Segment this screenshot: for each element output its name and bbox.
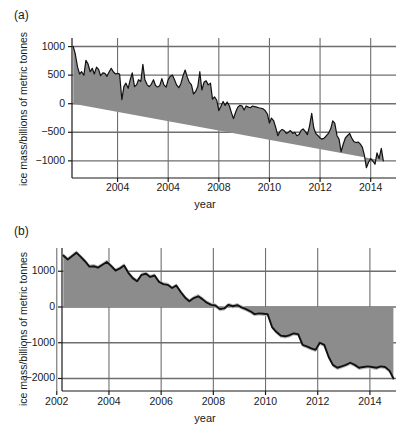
x-tick-label: 2012	[296, 395, 340, 407]
x-tick-label: 2008	[191, 395, 235, 407]
panel-a-xlabel: year	[150, 198, 260, 210]
x-tick-label: 2004	[87, 395, 131, 407]
x-tick-label: 2014	[349, 181, 393, 193]
x-tick-label: 2004	[96, 181, 140, 193]
y-tick-label: −1000	[0, 336, 55, 348]
x-tick-label: 2014	[348, 395, 392, 407]
x-tick-label: 2002	[35, 395, 79, 407]
y-tick-label: 500	[0, 68, 65, 80]
x-tick-label: 2012	[298, 181, 342, 193]
panel-b-xlabel: year	[150, 412, 260, 424]
x-tick-label: 2004	[146, 181, 190, 193]
y-tick-label: −500	[0, 125, 65, 137]
x-tick-label: 2006	[139, 395, 183, 407]
y-tick-label: 1000	[0, 264, 55, 276]
y-tick-label: −2000	[0, 371, 55, 383]
figure-container: (a) ice mass/billions of metric tonnes y…	[0, 0, 410, 432]
y-tick-label: −1000	[0, 154, 65, 166]
x-tick-label: 2010	[247, 181, 291, 193]
y-tick-label: 0	[0, 97, 65, 109]
x-tick-label: 2010	[244, 395, 288, 407]
y-tick-label: 1000	[0, 40, 65, 52]
x-tick-label: 2008	[197, 181, 241, 193]
y-tick-label: 0	[0, 300, 55, 312]
